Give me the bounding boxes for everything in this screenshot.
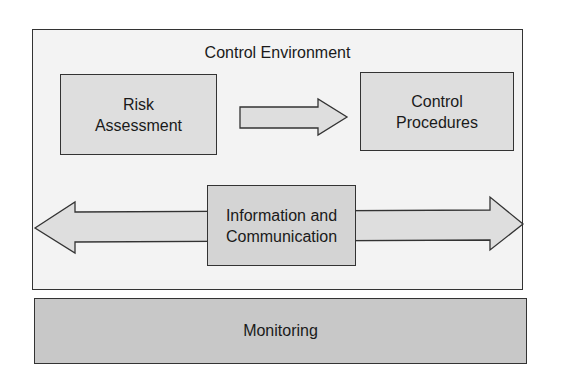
risk-assessment-box: Risk Assessment — [60, 74, 217, 155]
control-procedures-box: Control Procedures — [360, 72, 514, 151]
right-arrow-icon — [240, 99, 347, 135]
information-communication-box: Information and Communication — [207, 185, 356, 266]
monitoring-box: Monitoring — [34, 298, 527, 364]
risk-assessment-label: Risk Assessment — [95, 94, 182, 136]
monitoring-label: Monitoring — [243, 322, 318, 340]
control-procedures-label: Control Procedures — [396, 91, 478, 133]
information-communication-label: Information and Communication — [226, 205, 337, 247]
